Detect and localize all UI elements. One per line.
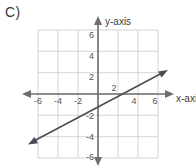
- y-axis-title: y-axis: [105, 16, 131, 27]
- x-tick-6: 6: [152, 96, 157, 106]
- y-tick-2: 2: [89, 72, 94, 82]
- y-tick-4: 4: [89, 51, 94, 61]
- data-line-right-arrow-icon: [158, 70, 168, 78]
- y-tick-minus2: -2: [86, 111, 94, 121]
- data-line-left-arrow-icon: [28, 137, 38, 145]
- x-axis-left-arrow-icon: [22, 90, 31, 98]
- x-tick-4: 4: [131, 96, 136, 106]
- x-axis-title: x-axis: [176, 93, 196, 104]
- x-tick-minus6: -6: [34, 96, 42, 106]
- y-tick-6: 6: [89, 30, 94, 40]
- y-tick-minus6: -6: [86, 152, 94, 162]
- x-tick-minus2: -2: [74, 96, 82, 106]
- x-axis-right-arrow-icon: [165, 90, 174, 98]
- y-axis-tick-labels: 6 4 2 -2 -4 -6: [86, 30, 94, 162]
- graph-question-panel: C): [0, 0, 196, 166]
- x-tick-minus4: -4: [54, 96, 62, 106]
- y-axis: [94, 16, 102, 166]
- y-axis-top-arrow-icon: [94, 16, 102, 25]
- y-axis-bottom-arrow-icon: [94, 157, 102, 166]
- y-tick-minus4: -4: [86, 132, 94, 142]
- coordinate-plane-chart: -6 -4 -2 2 4 6 6 4 2 -2 -4 -6 y-axis x-a…: [0, 0, 196, 166]
- x-tick-2: 2: [111, 83, 116, 93]
